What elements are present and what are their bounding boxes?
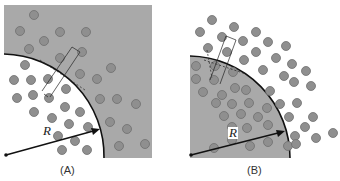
caption-b: (B)	[247, 164, 262, 176]
center-point	[189, 153, 193, 157]
panel-a	[4, 5, 152, 158]
radius-label-b: R	[228, 127, 238, 139]
caption-a: (A)	[60, 164, 75, 176]
panel-b	[189, 16, 337, 159]
center-point	[4, 153, 8, 157]
radius-label-a: R	[43, 123, 51, 139]
diagram-canvas	[0, 0, 340, 181]
